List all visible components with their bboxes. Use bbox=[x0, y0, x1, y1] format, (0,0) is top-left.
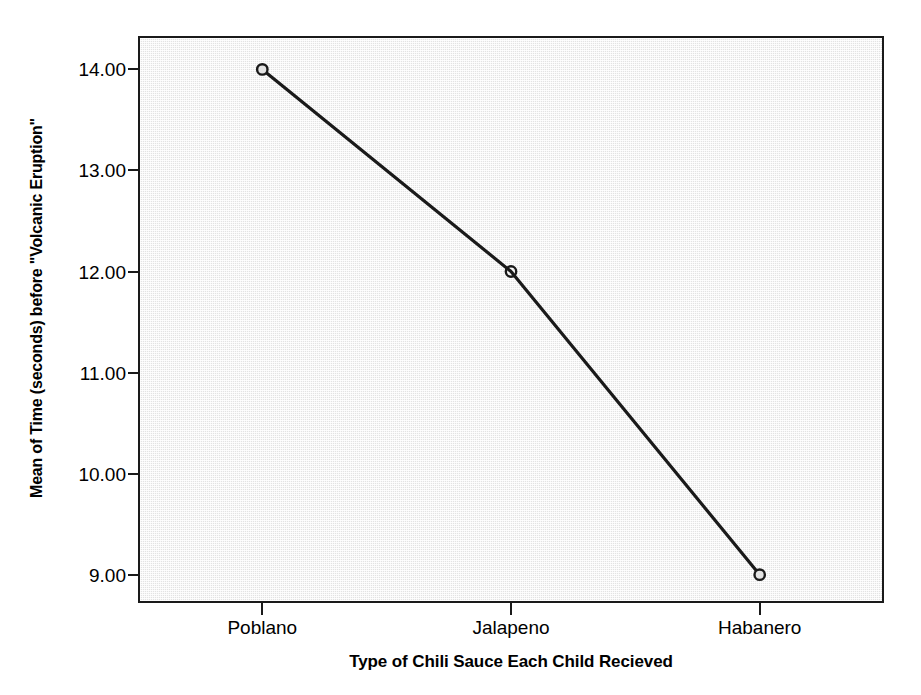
y-tick-label-14: 14.00 bbox=[54, 60, 126, 79]
x-tick-label-jalapeno: Jalapeno bbox=[411, 617, 611, 639]
x-axis-title: Type of Chili Sauce Each Child Recieved bbox=[138, 652, 884, 672]
x-tick-mark-poblano bbox=[261, 603, 263, 615]
y-tick-label-12: 12.00 bbox=[54, 262, 126, 281]
x-tick-label-habanero: Habanero bbox=[660, 617, 860, 639]
line-chart-figure: Mean of Time (seconds) before "Volcanic … bbox=[0, 0, 921, 695]
y-tick-label-11: 11.00 bbox=[54, 363, 126, 382]
x-tick-mark-habanero bbox=[759, 603, 761, 615]
y-tick-label-9: 9.00 bbox=[54, 565, 126, 584]
plot-area bbox=[138, 36, 884, 603]
y-tick-label-10: 10.00 bbox=[54, 464, 126, 483]
x-tick-label-poblano: Poblano bbox=[162, 617, 362, 639]
y-tick-label-13: 13.00 bbox=[54, 161, 126, 180]
x-tick-mark-jalapeno bbox=[510, 603, 512, 615]
y-axis-tick-label-group: 14.00 13.00 12.00 11.00 10.00 9.00 bbox=[52, 0, 126, 695]
y-axis-title: Mean of Time (seconds) before "Volcanic … bbox=[22, 0, 52, 618]
